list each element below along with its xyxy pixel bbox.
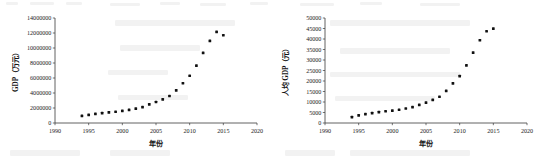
data-point xyxy=(141,106,144,109)
x-tick-label: 2015 xyxy=(217,128,229,134)
data-point xyxy=(411,106,414,109)
x-tick-label: 1995 xyxy=(83,128,95,134)
y-tick-label: 0 xyxy=(48,120,51,126)
y-tick-label: 0 xyxy=(318,120,321,126)
x-axis-title: 年份 xyxy=(149,139,164,148)
x-tick-label: 2005 xyxy=(150,128,162,134)
y-tick-label: 40000 xyxy=(306,36,321,42)
x-tick-label: 2020 xyxy=(251,128,263,134)
x-tick-label: 2000 xyxy=(116,128,128,134)
y-axis-title: 人均 GDP（元） xyxy=(281,45,290,97)
data-point xyxy=(209,40,212,43)
data-point xyxy=(370,112,373,115)
data-point xyxy=(444,90,447,93)
data-point xyxy=(397,108,400,111)
y-tick-label: 5000 xyxy=(309,110,321,116)
data-point xyxy=(195,64,198,67)
data-point xyxy=(134,107,137,110)
data-point xyxy=(350,116,353,119)
data-point xyxy=(101,112,104,115)
y-tick-label: 8000000 xyxy=(30,60,51,66)
y-tick-label: 50000 xyxy=(306,15,321,21)
data-point xyxy=(438,95,441,98)
y-tick-label: 30000 xyxy=(306,57,321,63)
data-point xyxy=(108,111,111,114)
x-tick-label: 1990 xyxy=(49,128,61,134)
data-point xyxy=(87,114,90,117)
data-point xyxy=(451,82,454,85)
x-tick-label: 1995 xyxy=(352,128,364,134)
data-point xyxy=(121,110,124,113)
y-tick-label: 4000000 xyxy=(30,90,51,96)
data-point xyxy=(364,113,367,116)
y-axis-title: GDP（万元） xyxy=(11,49,20,92)
data-point xyxy=(357,114,360,117)
data-point xyxy=(168,95,171,98)
chart-panel-gdp: 0200000040000006000000800000010000000120… xyxy=(0,0,270,166)
x-axis-title: 年份 xyxy=(419,139,434,148)
per-capita-gdp-plot-group: 0500010000150002000025000300003500040000… xyxy=(281,15,533,148)
x-tick-label: 2010 xyxy=(184,128,196,134)
data-point xyxy=(458,75,461,78)
y-tick-label: 10000 xyxy=(306,99,321,105)
data-point xyxy=(465,64,468,67)
x-tick-label: 2015 xyxy=(487,128,499,134)
data-point xyxy=(188,74,191,77)
data-point xyxy=(478,39,481,42)
gdp-plot-group: 0200000040000006000000800000010000000120… xyxy=(11,15,263,148)
data-point xyxy=(384,110,387,113)
per-capita-gdp-scatter-plot: 0500010000150002000025000300003500040000… xyxy=(270,0,539,166)
data-point xyxy=(431,99,434,102)
x-tick-label: 2020 xyxy=(520,128,532,134)
data-point xyxy=(222,34,225,37)
data-point xyxy=(215,31,218,34)
data-point xyxy=(485,30,488,33)
y-tick-label: 14000000 xyxy=(27,15,51,21)
y-tick-label: 35000 xyxy=(306,47,321,53)
x-tick-label: 1990 xyxy=(318,128,330,134)
data-point xyxy=(182,82,185,85)
y-tick-label: 20000 xyxy=(306,78,321,84)
data-point xyxy=(202,52,205,55)
y-tick-label: 45000 xyxy=(306,26,321,32)
gdp-scatter-plot: 0200000040000006000000800000010000000120… xyxy=(0,0,269,166)
data-point xyxy=(148,103,151,106)
y-tick-label: 10000000 xyxy=(27,45,51,51)
x-tick-label: 2005 xyxy=(419,128,431,134)
data-point xyxy=(404,107,407,110)
y-tick-label: 15000 xyxy=(306,89,321,95)
data-point xyxy=(417,104,420,107)
data-point xyxy=(424,101,427,104)
y-tick-label: 2000000 xyxy=(30,105,51,111)
data-point xyxy=(94,112,97,115)
data-point xyxy=(114,110,117,113)
data-point xyxy=(155,101,158,104)
y-tick-label: 25000 xyxy=(306,68,321,74)
x-tick-label: 2000 xyxy=(386,128,398,134)
data-point xyxy=(128,108,131,111)
chart-panel-per-capita-gdp: 0500010000150002000025000300003500040000… xyxy=(270,0,539,166)
data-point xyxy=(491,27,494,30)
x-tick-label: 2010 xyxy=(453,128,465,134)
data-point xyxy=(390,109,393,112)
figure-container: 0200000040000006000000800000010000000120… xyxy=(0,0,539,166)
data-point xyxy=(377,111,380,114)
data-point xyxy=(161,98,164,101)
data-point xyxy=(81,115,84,118)
y-tick-label: 12000000 xyxy=(27,30,51,36)
y-tick-label: 6000000 xyxy=(30,75,51,81)
data-point xyxy=(175,89,178,92)
data-point xyxy=(471,51,474,54)
